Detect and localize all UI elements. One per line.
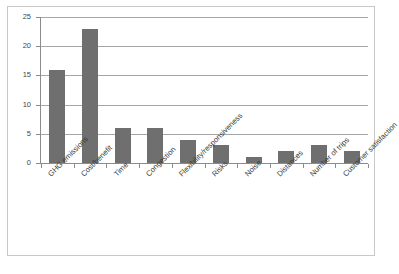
value-axis-tick-label: 15 [9,71,31,79]
bar [49,70,65,163]
category-axis-tick [303,164,304,168]
bar [246,157,262,163]
bar [82,29,98,163]
category-axis-line [40,163,368,164]
category-axis-tick [270,164,271,168]
value-axis-tick [36,17,40,18]
category-axis-tick [368,164,369,168]
bar [180,140,196,163]
bar [344,151,360,163]
value-axis-tick-label: 25 [9,13,31,21]
bar [311,145,327,163]
value-axis-tick [36,75,40,76]
bar [213,145,229,163]
value-axis-tick-label: 10 [9,101,31,109]
value-axis-tick-label: 20 [9,42,31,50]
value-axis-tick-label: 0 [9,159,31,167]
bar [115,128,131,163]
value-axis-tick [36,163,40,164]
value-axis-tick [36,134,40,135]
category-axis-tick [106,164,107,168]
category-axis-tick [74,164,75,168]
bar [278,151,294,163]
bars-group [41,17,368,163]
value-axis-tick [36,46,40,47]
category-axis-tick [41,164,42,168]
bar [147,128,163,163]
category-axis-tick [172,164,173,168]
value-axis-tick [36,105,40,106]
category-axis-tick [237,164,238,168]
value-axis-tick-label: 5 [9,130,31,138]
category-axis-tick [205,164,206,168]
category-axis-tick [139,164,140,168]
category-axis-tick [335,164,336,168]
